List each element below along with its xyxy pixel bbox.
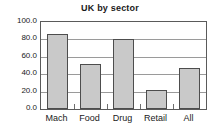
x-tick-label: Food [73,112,106,124]
bar-retail [146,90,167,109]
bar-all [179,68,200,109]
x-axis: MachFoodDrugRetailAll [40,112,207,126]
bar-drug [113,39,134,109]
y-tick-label: 40.0 [1,69,37,77]
plot-area [40,21,207,110]
x-tick-mark [173,104,174,109]
x-tick-mark [107,104,108,109]
x-tick-label: All [172,112,205,124]
x-tick-mark [74,104,75,109]
bar-chart: UK by sector 0.020.040.060.080.0100.0 Ma… [0,0,220,135]
x-tick-mark [140,104,141,109]
y-tick-label: 20.0 [1,87,37,95]
bar-food [80,64,101,109]
bar-mach [47,34,68,109]
y-tick-label: 60.0 [1,52,37,60]
x-tick-label: Drug [106,112,139,124]
y-tick-label: 80.0 [1,34,37,42]
y-tick-label: 100.0 [1,17,37,25]
y-axis: 0.020.040.060.080.0100.0 [0,21,37,110]
y-tick-label: 0.0 [1,104,37,112]
chart-title: UK by sector [0,2,220,14]
x-tick-label: Mach [40,112,73,124]
x-tick-label: Retail [139,112,172,124]
